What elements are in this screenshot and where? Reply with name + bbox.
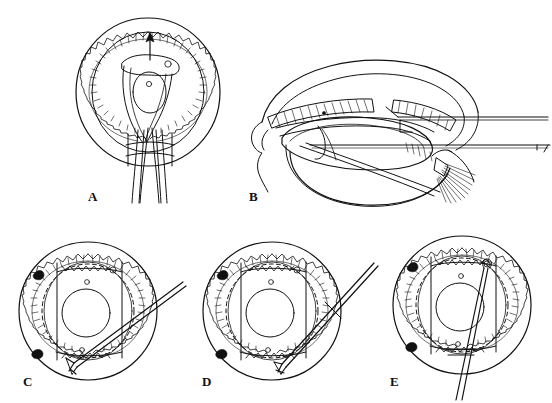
figure-canvas: A: [0, 0, 552, 403]
panel-b-label: B: [249, 189, 258, 204]
panel-e-label: E: [390, 374, 399, 389]
panel-d-label: D: [202, 374, 211, 389]
panel-b-marker-dot: [322, 111, 325, 114]
panel-d-outer-limbus: [203, 242, 341, 380]
panel-a-label: A: [88, 189, 98, 204]
panel-e-outer-limbus: [393, 236, 531, 374]
panel-c-label: C: [23, 374, 32, 389]
figure-root: A: [0, 0, 552, 403]
